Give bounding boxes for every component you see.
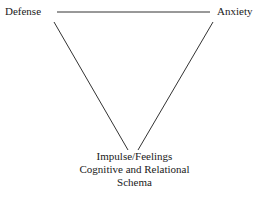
node-anxiety: Anxiety (217, 5, 252, 18)
node-bottom-line-1: Impulse/Feelings (0, 150, 269, 163)
node-bottom-line-3: Schema (0, 176, 269, 189)
node-impulse-feelings: Impulse/Feelings Cognitive and Relationa… (0, 150, 269, 189)
node-bottom-line-2: Cognitive and Relational (0, 163, 269, 176)
edge-defense-impulse (54, 22, 128, 150)
node-defense: Defense (5, 5, 41, 18)
edge-anxiety-impulse (138, 22, 213, 150)
